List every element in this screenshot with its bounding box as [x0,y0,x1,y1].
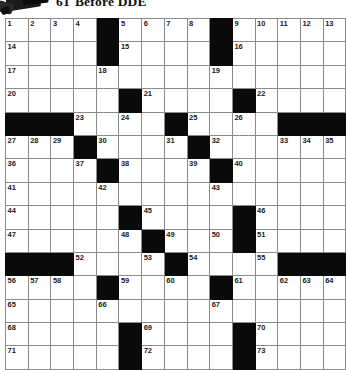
grid-cell[interactable] [142,182,165,205]
grid-cell[interactable] [210,323,233,346]
grid-cell[interactable]: 59 [119,276,142,299]
grid-cell[interactable] [119,252,142,275]
grid-cell[interactable] [210,112,233,135]
grid-cell[interactable] [51,299,74,322]
grid-cell[interactable] [255,42,278,65]
grid-cell[interactable] [187,206,210,229]
grid-cell[interactable] [96,323,119,346]
grid-cell[interactable] [142,276,165,299]
grid-cell[interactable] [96,252,119,275]
grid-cell[interactable] [164,206,187,229]
grid-cell[interactable]: 25 [187,112,210,135]
grid-cell[interactable] [300,323,323,346]
grid-cell[interactable] [28,346,51,369]
grid-cell[interactable] [142,112,165,135]
grid-cell[interactable]: 44 [6,206,29,229]
grid-cell[interactable]: 3 [51,19,74,42]
grid-cell[interactable] [164,159,187,182]
grid-cell[interactable]: 56 [6,276,29,299]
grid-cell[interactable]: 50 [210,229,233,252]
grid-cell[interactable] [278,229,301,252]
grid-cell[interactable] [74,323,97,346]
grid-cell[interactable] [51,182,74,205]
grid-cell[interactable]: 26 [232,112,255,135]
grid-cell[interactable] [96,346,119,369]
grid-cell[interactable]: 7 [164,19,187,42]
grid-cell[interactable] [28,159,51,182]
grid-cell[interactable]: 43 [210,182,233,205]
grid-cell[interactable]: 70 [255,323,278,346]
grid-cell[interactable]: 30 [96,135,119,158]
grid-cell[interactable]: 69 [142,323,165,346]
grid-cell[interactable] [187,299,210,322]
grid-cell[interactable]: 29 [51,135,74,158]
grid-cell[interactable]: 39 [187,159,210,182]
grid-cell[interactable] [142,135,165,158]
grid-cell[interactable] [187,42,210,65]
grid-cell[interactable] [119,135,142,158]
grid-cell[interactable] [187,229,210,252]
grid-cell[interactable]: 63 [300,276,323,299]
grid-cell[interactable] [255,135,278,158]
grid-cell[interactable]: 27 [6,135,29,158]
grid-cell[interactable] [300,346,323,369]
grid-cell[interactable] [164,182,187,205]
grid-cell[interactable] [96,206,119,229]
grid-cell[interactable]: 66 [96,299,119,322]
grid-cell[interactable]: 31 [164,135,187,158]
grid-cell[interactable] [300,206,323,229]
grid-cell[interactable]: 23 [74,112,97,135]
grid-cell[interactable]: 2 [28,19,51,42]
grid-cell[interactable]: 6 [142,19,165,42]
grid-cell[interactable] [323,206,346,229]
grid-cell[interactable]: 53 [142,252,165,275]
grid-cell[interactable] [74,206,97,229]
grid-cell[interactable]: 41 [6,182,29,205]
grid-cell[interactable]: 32 [210,135,233,158]
grid-cell[interactable]: 38 [119,159,142,182]
grid-cell[interactable]: 1 [6,19,29,42]
grid-cell[interactable]: 55 [255,252,278,275]
grid-cell[interactable] [28,65,51,88]
grid-cell[interactable] [278,206,301,229]
grid-cell[interactable] [255,65,278,88]
grid-cell[interactable]: 57 [28,276,51,299]
grid-cell[interactable] [74,89,97,112]
grid-cell[interactable]: 65 [6,299,29,322]
grid-cell[interactable] [300,229,323,252]
grid-cell[interactable]: 71 [6,346,29,369]
grid-cell[interactable] [74,299,97,322]
grid-cell[interactable] [255,299,278,322]
grid-cell[interactable]: 73 [255,346,278,369]
grid-cell[interactable]: 64 [323,276,346,299]
grid-cell[interactable] [278,89,301,112]
grid-cell[interactable] [51,346,74,369]
grid-cell[interactable]: 58 [51,276,74,299]
grid-cell[interactable]: 10 [255,19,278,42]
grid-cell[interactable]: 45 [142,206,165,229]
grid-cell[interactable] [28,89,51,112]
grid-cell[interactable] [323,346,346,369]
grid-cell[interactable] [28,323,51,346]
grid-cell[interactable] [278,323,301,346]
grid-cell[interactable] [278,159,301,182]
grid-cell[interactable] [278,182,301,205]
grid-cell[interactable]: 62 [278,276,301,299]
grid-cell[interactable] [255,159,278,182]
grid-cell[interactable] [323,89,346,112]
grid-cell[interactable] [187,346,210,369]
grid-cell[interactable]: 18 [96,65,119,88]
grid-cell[interactable] [187,323,210,346]
grid-cell[interactable] [323,182,346,205]
grid-cell[interactable]: 61 [232,276,255,299]
grid-cell[interactable]: 48 [119,229,142,252]
grid-cell[interactable] [142,299,165,322]
grid-cell[interactable] [210,252,233,275]
grid-cell[interactable]: 68 [6,323,29,346]
grid-cell[interactable] [28,42,51,65]
grid-cell[interactable] [300,299,323,322]
grid-cell[interactable] [164,323,187,346]
grid-cell[interactable]: 8 [187,19,210,42]
grid-cell[interactable] [255,276,278,299]
grid-cell[interactable] [255,182,278,205]
